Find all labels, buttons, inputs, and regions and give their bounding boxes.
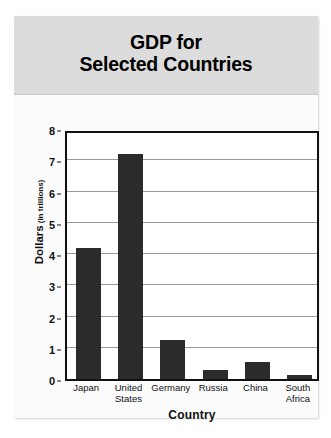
y-tick-mark bbox=[57, 349, 61, 350]
bar-series bbox=[67, 133, 317, 379]
chart-title-band: GDP for Selected Countries bbox=[14, 16, 318, 95]
y-tick-mark bbox=[57, 256, 61, 257]
y-tick-mark bbox=[57, 318, 61, 319]
y-tick-label: 1 bbox=[49, 344, 55, 356]
x-tick-label: Russia bbox=[192, 383, 234, 394]
x-axis-label: Country bbox=[65, 408, 319, 422]
y-tick-label: 2 bbox=[49, 313, 55, 325]
y-tick-label: 0 bbox=[49, 375, 55, 387]
y-tick-mark bbox=[57, 162, 61, 163]
bar bbox=[118, 154, 143, 379]
chart-figure: GDP for Selected Countries Dollars (in t… bbox=[14, 16, 318, 418]
plot-area bbox=[65, 131, 319, 381]
chart-title-line-2: Selected Countries bbox=[79, 54, 252, 76]
y-tick-label: 3 bbox=[49, 281, 55, 293]
y-axis-ticks: 012345678 bbox=[14, 131, 61, 381]
x-tick-label: UnitedStates bbox=[107, 383, 149, 404]
bar bbox=[160, 340, 185, 379]
x-tick-label: Germany bbox=[150, 383, 192, 394]
bar bbox=[76, 248, 101, 379]
bar bbox=[245, 362, 270, 379]
y-tick-label: 4 bbox=[49, 250, 55, 262]
y-tick-label: 8 bbox=[49, 125, 55, 137]
x-tick-label: SouthAfrica bbox=[277, 383, 319, 404]
plot-card: Dollars (in trillions) 012345678 JapanUn… bbox=[14, 95, 318, 418]
y-tick-mark bbox=[57, 131, 61, 132]
x-tick-label: China bbox=[234, 383, 276, 394]
y-tick-mark bbox=[57, 381, 61, 382]
x-tick-label: Japan bbox=[65, 383, 107, 394]
y-tick-mark bbox=[57, 287, 61, 288]
y-tick-mark bbox=[57, 224, 61, 225]
bar bbox=[287, 375, 312, 379]
y-tick-label: 5 bbox=[49, 219, 55, 231]
y-tick-mark bbox=[57, 193, 61, 194]
y-tick-label: 7 bbox=[49, 156, 55, 168]
chart-title-line-1: GDP for bbox=[130, 31, 202, 53]
y-tick-label: 6 bbox=[49, 188, 55, 200]
chart-title: GDP for Selected Countries bbox=[79, 32, 252, 78]
bar bbox=[203, 370, 228, 379]
